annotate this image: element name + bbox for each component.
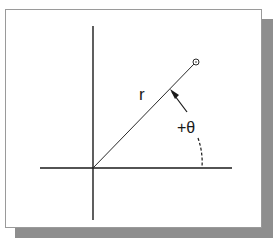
radius-label: r — [139, 85, 145, 104]
point-marker-center — [195, 61, 197, 63]
angle-arc — [198, 138, 202, 167]
radius-line — [93, 64, 194, 168]
angle-leader-arrow-icon — [170, 89, 187, 112]
diagram-stage: r +θ — [0, 0, 273, 238]
polar-coordinate-diagram: r +θ — [0, 0, 273, 238]
angle-label: +θ — [177, 119, 195, 136]
